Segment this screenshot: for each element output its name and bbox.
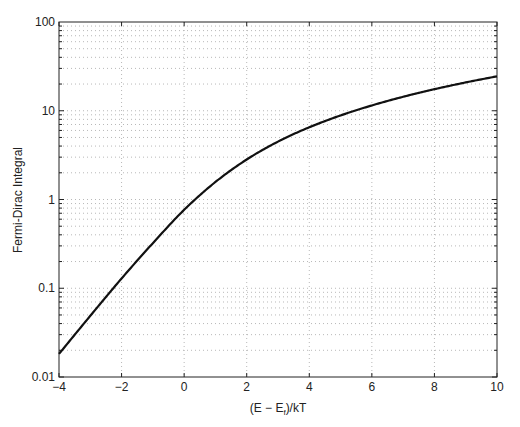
fermi-dirac-curve xyxy=(59,76,497,354)
x-tick-label: 4 xyxy=(306,380,313,394)
chart: −4−202468100.010.1110100 (E − Ef)/kT Fer… xyxy=(0,0,520,427)
y-tick-label: 100 xyxy=(35,15,55,29)
x-tick-label: −2 xyxy=(115,380,129,394)
x-tick-label: 6 xyxy=(369,380,376,394)
y-tick-label: 0.01 xyxy=(32,370,56,384)
x-tick-label: 2 xyxy=(243,380,250,394)
y-tick-label: 10 xyxy=(42,104,56,118)
y-tick-label: 0.1 xyxy=(38,281,55,295)
x-tick-label: 0 xyxy=(181,380,188,394)
axis-ticks: −4−202468100.010.1110100 xyxy=(32,15,504,394)
x-tick-label: 8 xyxy=(431,380,438,394)
y-axis-label: Fermi-Dirac Integral xyxy=(11,147,25,253)
x-axis-label: (E − Ef)/kT xyxy=(250,401,307,417)
y-tick-label: 1 xyxy=(48,193,55,207)
grid-lines xyxy=(59,22,497,377)
x-tick-label: 10 xyxy=(490,380,504,394)
